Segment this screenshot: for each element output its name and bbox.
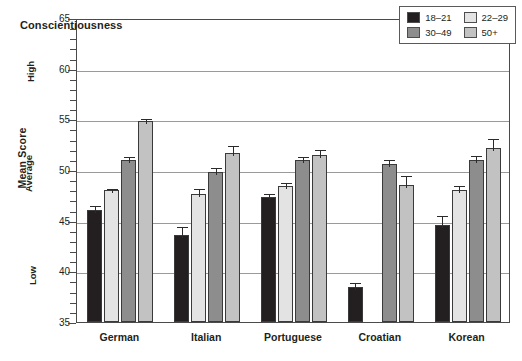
tick-minor-58 xyxy=(70,90,76,91)
tick-minor-39 xyxy=(70,282,76,283)
bar-portuguese-50+ xyxy=(312,155,327,322)
legend-label-18-21: 18–21 xyxy=(425,12,451,23)
bar-italian-18-21 xyxy=(174,235,189,322)
tick-minor-38 xyxy=(70,293,76,294)
tick-minor-43 xyxy=(70,242,76,243)
bar-italian-50+ xyxy=(225,153,240,322)
error-bar-stem xyxy=(233,146,234,156)
tick-minor-42 xyxy=(70,252,76,253)
tick-major-50 xyxy=(68,171,76,172)
legend-label-22-29: 22–29 xyxy=(482,12,508,23)
tick-minor-63 xyxy=(70,39,76,40)
error-bar-cap xyxy=(264,194,275,195)
tick-major-40 xyxy=(68,272,76,273)
error-bar-cap xyxy=(194,189,205,190)
tick-minor-59 xyxy=(70,80,76,81)
tick-minor-36 xyxy=(70,313,76,314)
bar-korean-50+ xyxy=(486,148,501,322)
error-bar-stem xyxy=(182,227,183,238)
tick-minor-52 xyxy=(70,151,76,152)
legend-swatch-icon-30-49 xyxy=(407,27,420,38)
y-tick-label-60: 60 xyxy=(44,65,70,75)
tick-minor-56 xyxy=(70,110,76,111)
tick-minor-47 xyxy=(70,201,76,202)
error-bar-cap xyxy=(471,156,482,157)
y-axis-ticks: 35404550556065 xyxy=(42,0,70,361)
x-axis-label-portuguese: Portuguese xyxy=(250,331,337,343)
plot-area xyxy=(76,19,510,323)
tick-minor-53 xyxy=(70,141,76,142)
tick-major-60 xyxy=(68,70,76,71)
error-bar-cap xyxy=(401,176,412,177)
error-bar-cap xyxy=(141,119,152,120)
tick-major-65 xyxy=(68,19,76,20)
error-bar-stem xyxy=(199,189,200,197)
bar-croatian-18-21 xyxy=(348,287,363,322)
y-anchor-average: Average xyxy=(23,144,34,204)
error-bar-cap xyxy=(281,183,292,184)
y-tick-label-50: 50 xyxy=(44,166,70,176)
y-tick-label-45: 45 xyxy=(44,217,70,227)
error-bar-stem xyxy=(493,139,494,151)
tick-minor-44 xyxy=(70,232,76,233)
x-axis-label-italian: Italian xyxy=(163,331,250,343)
y-tick-label-40: 40 xyxy=(44,267,70,277)
bar-italian-22-29 xyxy=(191,194,206,322)
x-axis-label-croatian: Croatian xyxy=(336,331,423,343)
chart-container: Mean Score High Average Low 354045505560… xyxy=(0,0,522,361)
bar-italian-30-49 xyxy=(208,172,223,322)
x-axis-label-korean: Korean xyxy=(423,331,510,343)
legend-item-22-29: 22–29 xyxy=(464,12,508,23)
error-bar-stem xyxy=(442,216,443,228)
error-bar-cap xyxy=(298,157,309,158)
bar-german-30-49 xyxy=(121,160,136,322)
gridline-60 xyxy=(77,71,509,72)
bar-german-22-29 xyxy=(104,190,119,322)
legend-swatch-icon-50-plus xyxy=(464,27,477,38)
legend-item-30-49: 30–49 xyxy=(407,27,451,38)
y-tick-label-35: 35 xyxy=(44,318,70,328)
error-bar-cap xyxy=(454,186,465,187)
y-anchor-low: Low xyxy=(27,246,38,306)
tick-minor-41 xyxy=(70,262,76,263)
bar-german-50+ xyxy=(138,121,153,322)
tick-minor-37 xyxy=(70,303,76,304)
error-bar-cap xyxy=(107,189,118,190)
error-bar-cap xyxy=(90,206,101,207)
legend-swatch-icon-22-29 xyxy=(464,12,477,23)
bar-croatian-50+ xyxy=(399,185,414,322)
bar-german-18-21 xyxy=(87,210,102,322)
legend-item-18-21: 18–21 xyxy=(407,12,451,23)
error-bar-stem xyxy=(216,168,217,175)
bar-croatian-30-49 xyxy=(382,164,397,322)
error-bar-stem xyxy=(459,186,460,193)
error-bar-cap xyxy=(211,168,222,169)
tick-minor-62 xyxy=(70,49,76,50)
tick-major-35 xyxy=(68,323,76,324)
bar-korean-18-21 xyxy=(435,225,450,322)
error-bar-stem xyxy=(320,150,321,158)
tick-minor-51 xyxy=(70,161,76,162)
tick-minor-61 xyxy=(70,60,76,61)
tick-minor-49 xyxy=(70,181,76,182)
bar-portuguese-30-49 xyxy=(295,160,310,322)
bar-portuguese-22-29 xyxy=(278,186,293,322)
x-axis-label-german: German xyxy=(76,331,163,343)
error-bar-cap xyxy=(177,227,188,228)
legend: 18–21 22–29 30–49 50+ xyxy=(399,6,516,44)
legend-label-30-49: 30–49 xyxy=(425,27,451,38)
error-bar-stem xyxy=(406,176,407,188)
bar-korean-30-49 xyxy=(469,160,484,322)
bar-korean-22-29 xyxy=(452,190,467,322)
tick-minor-64 xyxy=(70,29,76,30)
legend-swatch-icon-18-21 xyxy=(407,12,420,23)
tick-minor-54 xyxy=(70,130,76,131)
error-bar-cap xyxy=(228,146,239,147)
error-bar-cap xyxy=(384,160,395,161)
y-tick-label-55: 55 xyxy=(44,115,70,125)
error-bar-stem xyxy=(476,156,477,163)
bar-portuguese-18-21 xyxy=(261,197,276,322)
legend-item-50-plus: 50+ xyxy=(464,27,508,38)
error-bar-cap xyxy=(488,139,499,140)
tick-major-45 xyxy=(68,222,76,223)
